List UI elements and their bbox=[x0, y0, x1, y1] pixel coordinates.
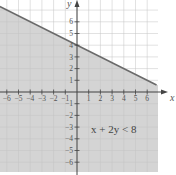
y-tick-label: 1 bbox=[69, 76, 73, 85]
x-axis-label: x bbox=[169, 92, 175, 103]
x-tick-label: −4 bbox=[26, 94, 34, 103]
x-tick-label: −3 bbox=[38, 94, 46, 103]
y-tick-label: −5 bbox=[65, 146, 73, 155]
y-tick-label: 6 bbox=[69, 17, 73, 26]
y-tick-label: −6 bbox=[65, 158, 73, 167]
x-tick-label: 6 bbox=[145, 94, 149, 103]
x-tick-label: 2 bbox=[99, 94, 103, 103]
x-tick-label: −2 bbox=[50, 94, 58, 103]
y-axis-label: y bbox=[66, 0, 72, 9]
y-axis-arrow-icon bbox=[75, 0, 80, 7]
x-tick-label: 3 bbox=[110, 94, 114, 103]
shaded-region bbox=[0, 7, 158, 172]
x-tick-label: −5 bbox=[15, 94, 23, 103]
inequality-label: x + 2y < 8 bbox=[91, 123, 137, 135]
x-tick-label: 5 bbox=[134, 94, 138, 103]
y-tick-label: −3 bbox=[65, 123, 73, 132]
x-axis-arrow-icon bbox=[161, 90, 168, 95]
y-tick-label: −1 bbox=[65, 99, 73, 108]
y-tick-label: −2 bbox=[65, 111, 73, 120]
y-tick-label: 3 bbox=[69, 53, 73, 62]
inequality-chart: −6−5−4−3−2−1123456−6−5−4−3−2−1123456xyx … bbox=[0, 0, 176, 175]
y-tick-label: 5 bbox=[69, 29, 73, 38]
plot-area: −6−5−4−3−2−1123456−6−5−4−3−2−1123456xyx … bbox=[0, 0, 176, 175]
y-tick-label: 4 bbox=[69, 41, 73, 50]
y-tick-label: −4 bbox=[65, 134, 73, 143]
x-tick-label: −6 bbox=[3, 94, 11, 103]
x-tick-label: 4 bbox=[122, 94, 126, 103]
y-tick-label: 2 bbox=[69, 64, 73, 73]
x-tick-label: 1 bbox=[87, 94, 91, 103]
